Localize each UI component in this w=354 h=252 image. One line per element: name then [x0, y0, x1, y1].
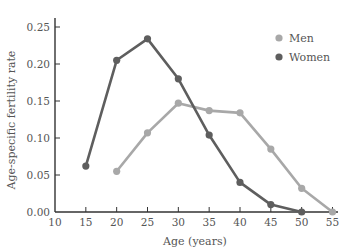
x-tick-label: 10	[48, 216, 61, 228]
y-tick-label: 0.25	[27, 21, 50, 33]
data-point	[113, 168, 120, 175]
x-tick-label: 50	[295, 216, 308, 228]
x-tick-label: 55	[326, 216, 339, 228]
legend-marker-men	[275, 34, 282, 41]
y-tick-label: 0.10	[27, 132, 50, 144]
data-point	[267, 201, 274, 208]
x-tick-label: 15	[79, 216, 92, 228]
y-tick-label: 0.05	[27, 169, 50, 181]
data-point	[206, 107, 213, 114]
legend: MenWomen	[275, 32, 330, 64]
data-point	[175, 75, 182, 82]
data-point	[298, 185, 305, 192]
x-tick-label: 30	[172, 216, 185, 228]
data-point	[144, 35, 151, 42]
legend-marker-women	[275, 53, 282, 60]
data-point	[144, 129, 151, 136]
data-point	[298, 208, 305, 215]
data-point	[236, 109, 243, 116]
data-point	[236, 179, 243, 186]
data-point	[175, 100, 182, 107]
y-tick-label: 0.00	[27, 206, 50, 218]
y-tick-label: 0.20	[27, 58, 50, 70]
axes: 101520253035404550550.000.050.100.150.20…	[27, 18, 340, 228]
legend-label-women: Women	[289, 51, 330, 64]
x-axis-label: Age (years)	[162, 235, 227, 248]
x-tick-label: 25	[141, 216, 154, 228]
series-women-line	[86, 39, 302, 212]
data-point	[329, 208, 336, 215]
data-point	[113, 57, 120, 64]
y-axis-label: Age-specific fertility rate	[5, 51, 18, 191]
x-tick-label: 40	[233, 216, 246, 228]
y-tick-label: 0.15	[27, 95, 50, 107]
data-point	[206, 131, 213, 138]
data-point	[82, 163, 89, 170]
x-tick-label: 35	[202, 216, 215, 228]
x-tick-label: 20	[110, 216, 123, 228]
legend-label-men: Men	[289, 32, 314, 45]
line-chart: 101520253035404550550.000.050.100.150.20…	[0, 0, 354, 252]
x-tick-label: 45	[264, 216, 277, 228]
data-point	[267, 146, 274, 153]
